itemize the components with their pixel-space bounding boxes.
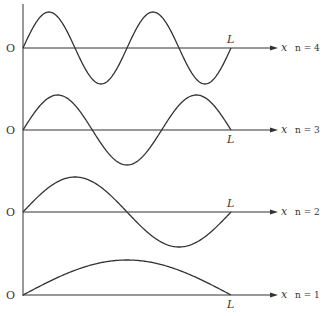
arrow-icon	[270, 128, 278, 133]
mode-label: n = 2	[295, 207, 320, 217]
standing-wave-diagram: OLxn = 4OLxn = 3OLxn = 2OLxn = 1	[0, 0, 323, 316]
arrow-icon	[270, 293, 278, 298]
arrow-icon	[270, 210, 278, 215]
origin-label: O	[6, 206, 15, 219]
x-axis-label: x	[281, 205, 288, 218]
diagram-svg: OLxn = 4OLxn = 3OLxn = 2OLxn = 1	[0, 0, 323, 316]
x-axis-label: x	[281, 288, 288, 301]
arrow-icon	[270, 46, 278, 51]
length-label: L	[226, 298, 234, 311]
origin-label: O	[6, 289, 15, 302]
mode-label: n = 3	[295, 125, 320, 135]
mode-label: n = 1	[295, 290, 320, 300]
wave-n1	[23, 260, 231, 295]
length-label: L	[226, 33, 234, 46]
origin-label: O	[6, 124, 15, 137]
origin-label: O	[6, 42, 15, 55]
x-axis-label: x	[281, 123, 288, 136]
x-axis-label: x	[281, 41, 288, 54]
length-label: L	[226, 133, 234, 146]
mode-label: n = 4	[295, 43, 320, 53]
length-label: L	[226, 197, 234, 210]
